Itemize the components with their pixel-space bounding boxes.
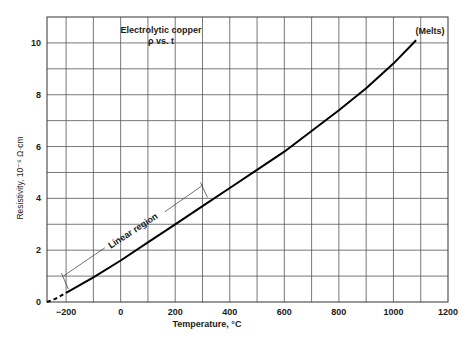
x-tick-label: 400 xyxy=(222,307,237,317)
x-tick-label: 600 xyxy=(277,307,292,317)
x-tick-label: 0 xyxy=(118,307,123,317)
linear-region-label: Linear region xyxy=(106,211,159,251)
x-tick-label: 800 xyxy=(331,307,346,317)
y-tick-label: 10 xyxy=(31,38,41,48)
x-tick-label: 1000 xyxy=(383,307,403,317)
y-tick-label: 4 xyxy=(36,193,41,203)
linear-region-arrow-left xyxy=(63,248,105,276)
y-tick-label: 0 xyxy=(36,297,41,307)
x-tick-label: 200 xyxy=(168,307,183,317)
chart-subtitle: ρ vs. t xyxy=(148,36,174,46)
grid-lines xyxy=(47,17,448,302)
plot-frame xyxy=(47,17,448,302)
series-line xyxy=(47,293,66,302)
chart-title: Electrolytic copper xyxy=(120,25,202,35)
x-axis-label: Temperature, °C xyxy=(173,319,242,329)
data-series xyxy=(47,40,416,302)
x-tick-label: −200 xyxy=(56,307,76,317)
y-axis-label: Resistivity, 10⁻⁶ Ω·cm xyxy=(15,136,25,219)
annotations: (Melts)Linear region xyxy=(61,26,444,289)
x-tick-label: 1200 xyxy=(438,307,458,317)
y-tick-label: 6 xyxy=(36,142,41,152)
series-line xyxy=(66,40,416,293)
linear-region-bracket-right xyxy=(200,182,207,197)
y-tick-label: 2 xyxy=(36,245,41,255)
y-tick-label: 8 xyxy=(36,90,41,100)
melts-annotation: (Melts) xyxy=(416,26,445,36)
resistivity-chart: −2000200400600800100012000246810 (Melts)… xyxy=(0,0,470,343)
